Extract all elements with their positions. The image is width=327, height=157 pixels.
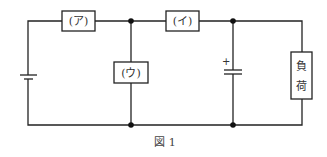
box-i-label: (イ) — [173, 15, 193, 28]
wire-top-right — [199, 21, 302, 52]
capacitor-plus-mark: + — [222, 56, 230, 67]
component-box-u: (ウ) — [114, 62, 148, 83]
load-box: 負 荷 — [291, 52, 312, 99]
junction-dot — [128, 122, 134, 128]
wire-bottom — [28, 79, 302, 125]
wire-left-top — [28, 21, 62, 75]
circuit-diagram: + (ア) (イ) (ウ) 負 荷 図 1 — [0, 0, 327, 157]
junction-dot — [230, 18, 236, 24]
junction-dot — [128, 18, 134, 24]
battery-icon — [20, 75, 37, 79]
component-box-a: (ア) — [62, 11, 95, 31]
figure-caption: 図 1 — [154, 136, 176, 149]
box-a-label: (ア) — [69, 15, 89, 28]
junction-dot — [230, 122, 236, 128]
load-label-2: 荷 — [296, 80, 307, 93]
capacitor-icon: + — [222, 56, 242, 74]
component-box-i: (イ) — [166, 11, 199, 31]
load-label-1: 負 — [296, 60, 307, 73]
wires — [28, 21, 302, 125]
box-u-label: (ウ) — [121, 67, 141, 80]
